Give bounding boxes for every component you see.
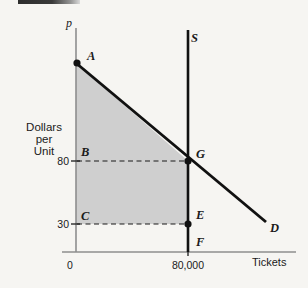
supply-curve-label: S: [191, 31, 198, 45]
scan-artifact-band: [18, 0, 80, 4]
point-marker-A: [73, 59, 80, 66]
y-tick-label-80: 80: [57, 155, 69, 167]
demand-curve-label: D: [269, 221, 279, 235]
x-tick-label-80000: 80,000: [172, 259, 204, 271]
point-label-F: F: [195, 235, 205, 249]
economics-supply-demand-figure: p A B C G E F S D 80 30 0 80,000 Tickets…: [0, 0, 308, 288]
origin-label: 0: [67, 259, 73, 271]
x-axis-title: Tickets: [252, 256, 287, 268]
point-label-B: B: [80, 145, 89, 159]
y-axis-title-line-2: per: [36, 133, 53, 145]
y-axis-variable-label: p: [65, 16, 72, 30]
point-label-A: A: [86, 49, 95, 63]
point-label-E: E: [195, 208, 204, 222]
point-label-C: C: [81, 209, 90, 223]
point-marker-E: [184, 220, 191, 227]
y-axis-title-line-3: Unit: [34, 145, 55, 157]
chart-canvas: p A B C G E F S D 80 30 0 80,000 Tickets…: [0, 0, 308, 288]
point-label-G: G: [196, 147, 205, 161]
point-marker-G: [184, 157, 191, 164]
y-axis-title-line-1: Dollars: [26, 121, 62, 133]
y-tick-label-30: 30: [57, 218, 69, 230]
